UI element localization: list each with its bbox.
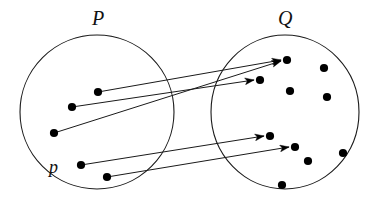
- set-label-Q: Q: [278, 8, 292, 28]
- set-Q-element-q3: [256, 76, 264, 84]
- set-Q-element-q6: [266, 132, 274, 140]
- set-Q-element-q5: [323, 93, 331, 101]
- mapping-arrow-4: [81, 136, 264, 165]
- set-Q-element-q1: [283, 56, 291, 64]
- mapping-arrow-3: [54, 61, 281, 133]
- set-Q-element-q7: [291, 143, 299, 151]
- set-P-element-p2: [68, 103, 76, 111]
- element-label-p: p: [49, 158, 58, 176]
- set-Q-element-q2: [320, 64, 328, 72]
- set-P-element-p5: [103, 173, 111, 181]
- set-mapping-diagram: P Q p: [0, 0, 383, 207]
- mapping-arrow-1: [98, 60, 281, 92]
- set-P-elements-group: [50, 88, 111, 181]
- set-Q-element-q4: [286, 87, 294, 95]
- set-Q-elements-group: [256, 56, 347, 189]
- set-Q-element-q9: [304, 157, 312, 165]
- mapping-arrows-group: [54, 60, 289, 177]
- set-P-element-p1: [94, 88, 102, 96]
- set-P-element-p4: [77, 161, 85, 169]
- set-Q-element-q8: [339, 149, 347, 157]
- set-label-P: P: [92, 8, 104, 28]
- mapping-arrow-5: [107, 147, 289, 177]
- set-circle-P: [20, 35, 174, 189]
- set-Q-element-q10: [278, 181, 286, 189]
- set-P-element-p3: [50, 129, 58, 137]
